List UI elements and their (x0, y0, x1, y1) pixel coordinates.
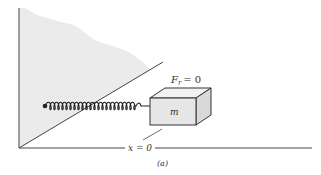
mass-block (150, 88, 211, 125)
wall-shading (19, 8, 150, 148)
spring (43, 102, 150, 110)
position-label: x = 0 (128, 143, 152, 153)
equilibrium-marker (143, 129, 162, 140)
figure-caption: (a) (157, 159, 168, 168)
spring-mass-diagram: m Fr= 0 x = 0 (a) (0, 0, 321, 175)
force-label: Fr= 0 (170, 74, 201, 87)
mass-label: m (170, 107, 179, 117)
